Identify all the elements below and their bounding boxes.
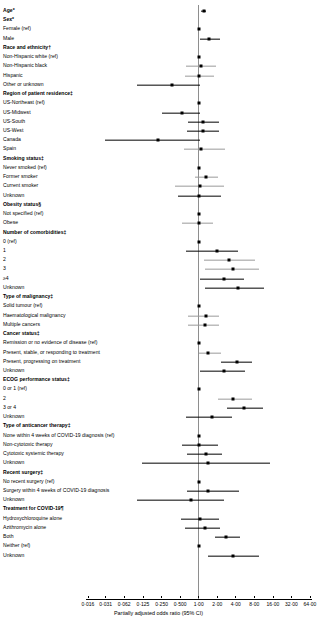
estimate-point-marker xyxy=(227,259,230,262)
row-label: Not specified (ref) xyxy=(3,211,43,217)
row-label: Solid tumour (ref) xyxy=(3,303,43,309)
estimate-point-marker xyxy=(223,277,226,280)
row-label: Former smoker xyxy=(3,174,38,180)
row-label: Unknown xyxy=(3,497,24,503)
confidence-interval-bar xyxy=(184,149,225,150)
x-axis-line xyxy=(86,599,312,600)
row-label: Other or unknown xyxy=(3,82,44,88)
x-axis-tick xyxy=(217,596,218,598)
x-axis-tick xyxy=(180,596,181,598)
reference-line-or-1 xyxy=(198,5,199,599)
estimate-point-marker xyxy=(203,526,206,529)
estimate-point-marker xyxy=(198,185,201,188)
x-axis-tick xyxy=(273,596,274,598)
row-label: ≥4 xyxy=(3,276,9,282)
estimate-point-marker xyxy=(207,351,210,354)
row-label: 0 or 1 (ref) xyxy=(3,386,27,392)
x-axis-tick xyxy=(235,596,236,598)
group-header-label: Sex* xyxy=(3,17,14,23)
group-header-label: Race and ethnicity† xyxy=(3,45,51,51)
estimate-point-marker xyxy=(157,139,160,142)
row-label: Canada xyxy=(3,137,21,143)
estimate-point-marker xyxy=(202,120,205,123)
estimate-point-marker xyxy=(236,286,239,289)
row-label: Non-Hispanic black xyxy=(3,63,47,69)
reference-point-marker xyxy=(197,342,200,345)
row-label: Unknown xyxy=(3,193,24,199)
row-label: US-Northeast (ref) xyxy=(3,100,45,106)
row-label: Multiple cancers xyxy=(3,322,40,328)
row-label: 3 xyxy=(3,266,6,272)
x-axis-tick xyxy=(105,596,106,598)
estimate-point-marker xyxy=(211,416,214,419)
estimate-point-marker xyxy=(204,314,207,317)
estimate-point-marker xyxy=(189,499,192,502)
x-axis-tick xyxy=(254,596,255,598)
confidence-interval-bar xyxy=(199,352,221,353)
row-label: 0 (ref) xyxy=(3,239,17,245)
estimate-point-marker xyxy=(225,536,228,539)
estimate-point-marker xyxy=(197,222,200,225)
estimate-point-marker xyxy=(208,37,211,40)
group-header-label: Type of malignancy‡ xyxy=(3,294,53,300)
row-label: Current smoker xyxy=(3,183,38,189)
row-label: Non-cytotoxic therapy xyxy=(3,442,52,448)
row-label: Remission or no evidence of disease (ref… xyxy=(3,340,97,346)
estimate-point-marker xyxy=(198,443,201,446)
estimate-point-marker xyxy=(202,129,205,132)
x-axis-tick xyxy=(198,596,199,598)
confidence-interval-bar xyxy=(186,417,232,418)
row-label: 2 xyxy=(3,396,6,402)
row-label: Azithromycin alone xyxy=(3,525,46,531)
row-label: Never smoked (ref) xyxy=(3,165,47,171)
row-label: 1 xyxy=(3,248,6,254)
confidence-interval-bar xyxy=(137,500,224,501)
row-label: Present, progressing on treatment xyxy=(3,359,80,365)
x-axis-tick xyxy=(291,596,292,598)
reference-point-marker xyxy=(197,305,200,308)
estimate-point-marker xyxy=(204,453,207,456)
group-header-label: Region of patient residence‡ xyxy=(3,91,73,97)
x-axis-tick xyxy=(124,596,125,598)
row-label: 2 xyxy=(3,257,6,263)
row-label: Hispanic xyxy=(3,73,23,79)
estimate-point-marker xyxy=(242,406,245,409)
row-label: Both xyxy=(3,534,14,540)
reference-point-marker xyxy=(197,213,200,216)
group-header-label: Age* xyxy=(3,8,15,14)
row-label: Unknown xyxy=(3,414,24,420)
row-label: Haematological malignancy xyxy=(3,313,66,319)
estimate-point-marker xyxy=(198,74,201,77)
reference-point-marker xyxy=(197,480,200,483)
estimate-point-marker xyxy=(215,249,218,252)
row-label: Unknown xyxy=(3,368,24,374)
group-header-label: Smoking status‡ xyxy=(3,156,44,162)
group-header-label: ECOG performance status‡ xyxy=(3,377,70,383)
estimate-point-marker xyxy=(180,111,183,114)
row-label: Male xyxy=(3,36,14,42)
x-axis-tick xyxy=(310,596,311,598)
reference-point-marker xyxy=(197,28,200,31)
row-label: Spain xyxy=(3,146,16,152)
reference-point-marker xyxy=(197,56,200,59)
reference-point-marker xyxy=(197,166,200,169)
estimate-point-marker xyxy=(204,176,207,179)
row-label: No recent surgery (ref) xyxy=(3,479,54,485)
row-label: Unknown xyxy=(3,553,24,559)
estimate-point-marker xyxy=(223,369,226,372)
group-header-label: Treatment for COVID-19¶ xyxy=(3,506,64,512)
group-header-label: Number of comorbidities‡ xyxy=(3,230,66,236)
estimate-point-marker xyxy=(171,83,174,86)
forest-plot: Age*Sex*Female (ref)MaleRace and ethnici… xyxy=(0,0,317,629)
reference-point-marker xyxy=(197,388,200,391)
row-label: None within 4 weeks of COVID-19 diagnosi… xyxy=(3,433,114,439)
confidence-interval-bar xyxy=(186,251,237,252)
row-label: US-West xyxy=(3,128,23,134)
row-label: Female (ref) xyxy=(3,26,31,32)
row-label: Present, stable, or responding to treatm… xyxy=(3,350,100,356)
group-header-label: Cancer status‡ xyxy=(3,331,40,337)
confidence-interval-bar xyxy=(137,84,200,85)
x-axis-tick xyxy=(143,596,144,598)
row-label: Cytotoxic systemic therapy xyxy=(3,451,64,457)
reference-point-marker xyxy=(197,545,200,548)
